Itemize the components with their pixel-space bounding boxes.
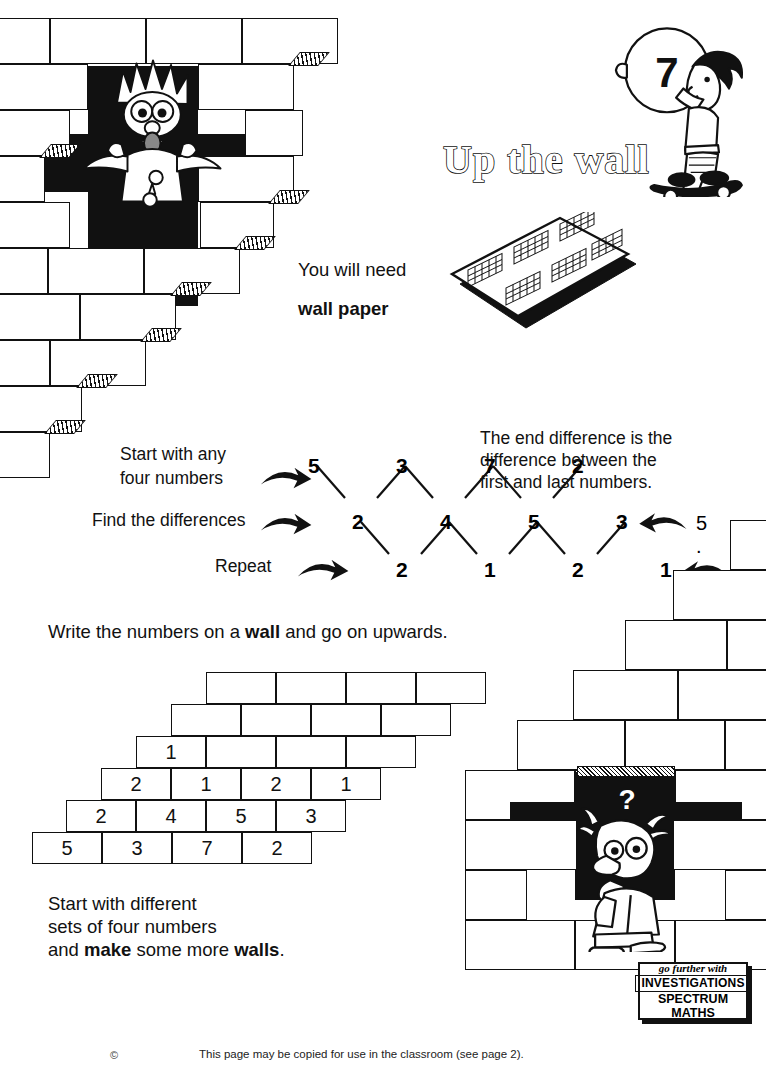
wall-cell[interactable]: 5 (32, 832, 102, 864)
diagram-row2-cell: 2 (352, 510, 364, 534)
end-note-line3: first and last numbers. (480, 472, 730, 494)
wall-cell[interactable]: 2 (241, 768, 311, 800)
wall-cell[interactable]: 7 (172, 832, 242, 864)
materials-label: You will need (298, 258, 406, 281)
skateboard-boy-icon: 7 (605, 22, 760, 197)
label-find-differences: Find the differences (92, 510, 245, 532)
closing-line3-walls: walls (234, 939, 279, 960)
thinking-character-icon: ? (552, 782, 702, 952)
diagram-row3-cell: 2 (396, 558, 408, 582)
footer-notice: This page may be copied for use in the c… (199, 1048, 524, 1060)
wall-cell[interactable]: 2 (66, 800, 136, 832)
materials-item: wall paper (298, 297, 388, 320)
wall-cell[interactable]: 1 (136, 736, 206, 768)
wall-cell[interactable] (276, 736, 346, 768)
closing-line3-e: . (279, 939, 284, 960)
diagram-row1-cell: 5 (308, 454, 320, 478)
closing-line2: sets of four numbers (48, 915, 285, 938)
wall-cell[interactable] (311, 704, 381, 736)
wall-cell[interactable] (346, 736, 416, 768)
diagram-row2-cell: 4 (440, 510, 452, 534)
wall-cell[interactable] (276, 672, 346, 704)
wall-cell[interactable] (206, 736, 276, 768)
logo-tagline: go further with (659, 962, 727, 974)
write-instruction-part1: Write the numbers on a (48, 621, 245, 642)
copyright-symbol: © (110, 1049, 118, 1061)
thought-question-mark: ? (618, 784, 635, 815)
wall-paper-sheet-icon (440, 212, 640, 342)
logo-spectrum: SPECTRUM (658, 993, 728, 1006)
wall-cell[interactable]: 1 (311, 768, 381, 800)
wall-cell[interactable] (381, 704, 451, 736)
end-note-line2: difference between the (480, 450, 730, 472)
wall-cell[interactable]: 5 (206, 800, 276, 832)
number-wall-grid: 1 2 1 2 1 2 4 5 3 5 3 7 2 (46, 672, 466, 862)
wall-cell[interactable]: 2 (101, 768, 171, 800)
closing-instruction: Start with different sets of four number… (48, 892, 285, 961)
diagram-row1-cell: 3 (396, 454, 408, 478)
logo-investigations: INVESTIGATIONS (635, 975, 750, 992)
end-note-line1: The end difference is the (480, 428, 730, 450)
wall-cell[interactable]: 2 (242, 832, 312, 864)
wall-cell[interactable]: 3 (102, 832, 172, 864)
label-start-line2: four numbers (120, 468, 223, 490)
end-difference-note: The end difference is the difference bet… (480, 428, 730, 494)
closing-line3-a: and (48, 939, 84, 960)
wall-cell[interactable]: 1 (171, 768, 241, 800)
write-instruction: Write the numbers on a wall and go on up… (48, 620, 448, 643)
wall-cell[interactable] (171, 704, 241, 736)
worksheet-page: Up the wall (0, 0, 766, 1078)
wall-cell[interactable]: 3 (276, 800, 346, 832)
label-start-line1: Start with any (120, 444, 226, 466)
wall-cell[interactable] (241, 704, 311, 736)
character-in-wall-icon (78, 50, 228, 215)
publisher-logo: go further with INVESTIGATIONS SPECTRUM … (638, 962, 748, 1020)
closing-line3: and make some more walls. (48, 938, 285, 961)
write-instruction-part2: and go on upwards. (280, 621, 448, 642)
number-badge-value: 7 (655, 49, 678, 96)
logo-maths: MATHS (671, 1007, 715, 1020)
write-instruction-bold: wall (245, 621, 280, 642)
label-repeat: Repeat (215, 556, 271, 578)
wall-cell[interactable] (206, 672, 276, 704)
wall-cell[interactable] (346, 672, 416, 704)
closing-line3-make: make (84, 939, 131, 960)
closing-line1: Start with different (48, 892, 285, 915)
closing-line3-c: some more (131, 939, 234, 960)
wall-cell[interactable]: 4 (136, 800, 206, 832)
